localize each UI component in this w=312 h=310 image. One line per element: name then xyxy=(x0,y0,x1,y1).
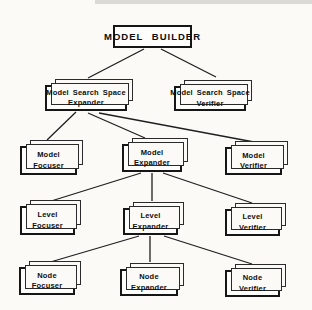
node-label-line1: Model xyxy=(242,151,265,162)
diagram-title: MODEL BUILDER xyxy=(104,31,201,42)
node-level-expander: Level Expander xyxy=(123,208,178,235)
node-label-line2: Verifier xyxy=(239,284,266,295)
node-label-line1: Node xyxy=(243,273,263,284)
node-label-line2: Expander xyxy=(133,222,169,233)
node-label-line2: Focuser xyxy=(32,281,63,292)
node-label-line1: Level xyxy=(37,210,57,221)
node-label-line2: Focuser xyxy=(32,221,63,232)
node-label-line2: Verifier xyxy=(196,99,223,110)
node-label-line1: Level xyxy=(140,211,160,222)
edge-mss-expander-to-model-focuser xyxy=(47,112,76,140)
node-label-line2: Focuser xyxy=(33,161,64,172)
node-label-line1: Level xyxy=(242,212,262,223)
node-label-line2: Verifier xyxy=(239,223,266,234)
node-label-line1: Node xyxy=(139,272,159,283)
model-builder-box: MODEL BUILDER xyxy=(113,25,192,48)
node-model-search-space-verifier: Model Search Space Verifier xyxy=(174,86,246,111)
edge-builder-to-mss-verifier xyxy=(161,49,216,77)
node-label-line1: Model xyxy=(141,148,164,159)
edge-builder-to-mss-expander xyxy=(88,49,144,78)
node-label-line1: Model xyxy=(37,150,60,161)
node-level-verifier: Level Verifier xyxy=(225,209,280,236)
node-label-line1: Model Search Space xyxy=(46,88,126,99)
diagram-canvas: MODEL BUILDER Model Search Space Expande… xyxy=(0,0,312,310)
node-label-line2: Expander xyxy=(68,98,104,109)
edge-model-expander-to-level-focuser xyxy=(48,173,141,202)
node-label-line2: Verifier xyxy=(240,161,267,172)
node-model-expander: Model Expander xyxy=(122,144,182,172)
node-label-line2: Expander xyxy=(131,283,167,294)
edge-level-expander-to-node-verifier xyxy=(164,236,252,264)
node-label-line2: Expander xyxy=(134,158,170,169)
node-label-line1: Model Search Space xyxy=(170,88,250,99)
node-level-focuser: Level Focuser xyxy=(20,206,75,235)
node-model-search-space-expander: Model Search Space Expander xyxy=(45,85,127,111)
node-model-focuser: Model Focuser xyxy=(20,146,77,175)
node-model-verifier: Model Verifier xyxy=(225,147,282,175)
node-node-focuser: Node Focuser xyxy=(19,267,75,295)
node-node-verifier: Node Verifier xyxy=(225,270,280,297)
node-label-line1: Node xyxy=(37,271,57,282)
edge-model-expander-to-level-verifier xyxy=(163,173,252,203)
edge-level-expander-to-node-focuser xyxy=(47,236,139,263)
node-node-expander: Node Expander xyxy=(120,269,178,296)
